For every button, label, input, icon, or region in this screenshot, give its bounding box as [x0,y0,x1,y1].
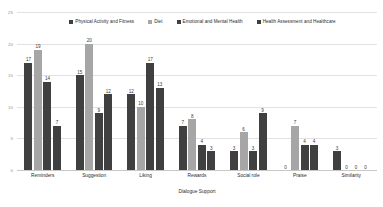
y-axis-tick-label: 20 [8,41,13,46]
bar-value-label: 6 [242,127,245,132]
bar-column[interactable]: 3 [207,12,215,170]
bar[interactable] [43,82,51,170]
bar[interactable] [259,113,267,170]
bar-value-label: 12 [106,89,111,94]
bar-value-label: 7 [56,120,59,125]
bar-column[interactable]: 10 [137,12,145,170]
bar-value-label: 0 [284,165,287,170]
bar-column[interactable]: 13 [156,12,164,170]
bar-column[interactable]: 9 [259,12,267,170]
x-axis-title: Dialogue Support [17,188,377,195]
bar-column[interactable]: 6 [240,12,248,170]
bar-column[interactable]: 4 [301,12,309,170]
bar-column[interactable]: 20 [85,12,93,170]
y-axis-tick-label: 15 [8,73,13,78]
bar[interactable] [24,63,32,170]
bar-value-label: 0 [355,165,358,170]
bar-value-label: 0 [364,165,367,170]
bar[interactable] [146,63,154,170]
bar-value-label: 0 [345,165,348,170]
bar-value-label: 4 [200,139,203,144]
bar-column[interactable]: 0 [361,12,369,170]
bar-value-label: 19 [35,44,40,49]
bar[interactable] [137,107,145,170]
bar[interactable] [207,151,215,170]
bar[interactable] [156,88,164,170]
x-axis-tick-label: Reminders [17,172,68,182]
bar-column[interactable]: 0 [352,12,360,170]
bar-column[interactable]: 7 [179,12,187,170]
bar-column[interactable]: 12 [104,12,112,170]
bar-value-label: 14 [45,76,50,81]
gridline [17,170,377,171]
bar-value-label: 7 [294,120,297,125]
bar-column[interactable]: 0 [342,12,350,170]
y-axis-tick-labels: 0510152025 [0,12,15,170]
bar-value-label: 8 [191,114,194,119]
bar-group: 1719147 [17,12,68,170]
bar[interactable] [104,94,112,170]
x-axis-tick-label: Social role [223,172,274,182]
bar-column[interactable]: 14 [43,12,51,170]
bar-column[interactable]: 17 [146,12,154,170]
y-axis-tick-label: 25 [8,10,13,15]
y-axis-tick-label: 0 [11,168,13,173]
x-axis-tick-label: Suggestion [68,172,119,182]
bar-value-label: 4 [313,139,316,144]
bar[interactable] [34,50,42,170]
y-axis-tick-label: 10 [8,104,13,109]
bar-column[interactable]: 12 [127,12,135,170]
x-axis-tick-label: Rewards [171,172,222,182]
bar-value-label: 17 [26,57,31,62]
bar[interactable] [291,126,299,170]
bar-column[interactable]: 3 [230,12,238,170]
bar-column[interactable]: 4 [310,12,318,170]
bar[interactable] [333,151,341,170]
bar[interactable] [95,113,103,170]
bar-chart: Physical Activity and FitnessDietEmotion… [0,0,383,207]
bar-value-label: 15 [77,70,82,75]
bar-column[interactable]: 4 [198,12,206,170]
bar-group: 1520912 [68,12,119,170]
bar[interactable] [249,151,257,170]
bar-value-label: 17 [148,57,153,62]
bar-group: 12101713 [120,12,171,170]
bar-value-label: 9 [261,108,264,113]
bar-group: 0744 [274,12,325,170]
bar-column[interactable]: 8 [188,12,196,170]
bar-column[interactable]: 9 [95,12,103,170]
bar-column[interactable]: 7 [291,12,299,170]
bar[interactable] [179,126,187,170]
bar[interactable] [53,126,61,170]
bar[interactable] [240,132,248,170]
bar-column[interactable]: 3 [249,12,257,170]
bar-column[interactable]: 0 [282,12,290,170]
x-axis-tick-label: Similarity [326,172,377,182]
x-axis-tick-label: Liking [120,172,171,182]
bar[interactable] [310,145,318,170]
bar-value-label: 13 [157,82,162,87]
bar-column[interactable]: 19 [34,12,42,170]
bar-groups: 17191471520912121017137843363907443000 [17,12,377,170]
bar-value-label: 7 [181,120,184,125]
x-axis-tick-labels: RemindersSuggestionLikingRewardsSocial r… [17,172,377,182]
bar-column[interactable]: 3 [333,12,341,170]
bar-group: 3000 [326,12,377,170]
bar[interactable] [301,145,309,170]
bar[interactable] [230,151,238,170]
bar[interactable] [127,94,135,170]
bar[interactable] [85,44,93,170]
bar-value-label: 3 [233,146,236,151]
bar[interactable] [76,75,84,170]
bar-column[interactable]: 17 [24,12,32,170]
bar-value-label: 3 [336,146,339,151]
bar-column[interactable]: 15 [76,12,84,170]
bar[interactable] [198,145,206,170]
bar-value-label: 9 [98,108,101,113]
bar-value-label: 20 [87,38,92,43]
bar-value-label: 12 [129,89,134,94]
bar[interactable] [188,119,196,170]
bar-group: 3639 [223,12,274,170]
bar-column[interactable]: 7 [53,12,61,170]
bar-group: 7843 [171,12,222,170]
